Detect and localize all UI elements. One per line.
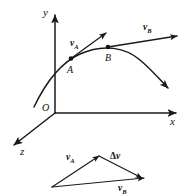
trajectory-curve-group bbox=[34, 48, 168, 107]
velocity-b-arrow bbox=[108, 36, 177, 47]
z-axis-label: z bbox=[19, 145, 25, 157]
triangle-va-arrow bbox=[52, 156, 99, 187]
delta-v-symbol: v bbox=[116, 151, 121, 161]
figure-container: y x z O A vA B vB vA Δv bbox=[0, 0, 186, 195]
point-a-group: A vA bbox=[66, 33, 106, 75]
triangle-delta-v-arrow bbox=[99, 156, 142, 178]
point-a-label: A bbox=[66, 64, 74, 75]
origin-label: O bbox=[42, 102, 49, 113]
velocity-b-subscript: B bbox=[146, 27, 152, 34]
triangle-vb-label: vB bbox=[118, 183, 127, 195]
velocity-b-label: vB bbox=[143, 22, 152, 34]
triangle-delta-v-label: Δv bbox=[110, 151, 121, 161]
trajectory-curve bbox=[34, 48, 168, 107]
triangle-vb-arrow bbox=[52, 178, 144, 187]
z-axis-line bbox=[14, 113, 55, 145]
velocity-a-label: vA bbox=[70, 38, 79, 50]
triangle-vb-subscript: B bbox=[121, 188, 127, 195]
triangle-va-subscript: A bbox=[69, 157, 75, 164]
x-axis-label: x bbox=[169, 115, 175, 127]
axes-group: y x z O bbox=[14, 6, 176, 157]
vector-diagram: y x z O A vA B vB vA Δv bbox=[0, 0, 186, 195]
triangle-va-label: vA bbox=[66, 152, 75, 164]
velocity-a-subscript: A bbox=[73, 43, 79, 50]
point-b-group: B vB bbox=[105, 22, 177, 63]
y-axis-label: y bbox=[42, 6, 48, 18]
point-b-label: B bbox=[105, 52, 111, 63]
vector-triangle-group: vA Δv vB bbox=[52, 151, 144, 195]
